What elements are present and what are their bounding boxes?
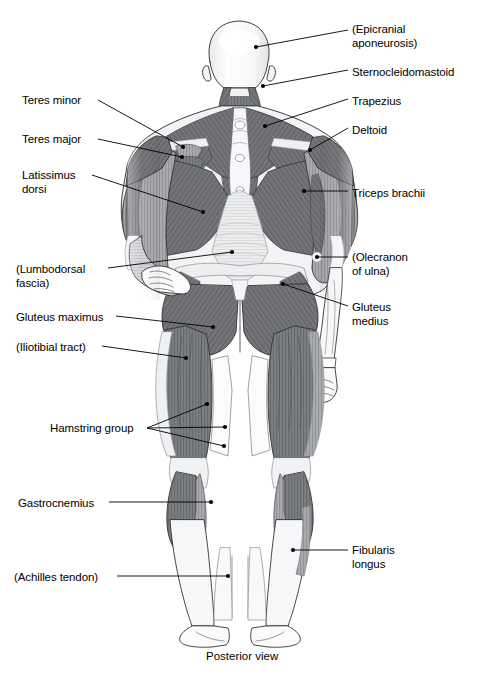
leader-endpoint-dot (302, 189, 306, 193)
leader-endpoint-dot (315, 255, 319, 259)
label-iliotibial-tract: (Iliotibial tract) (16, 340, 86, 354)
leader-line (256, 30, 348, 47)
leader-endpoint-dot (205, 402, 209, 406)
label-lumbodorsal-fascia: (Lumbodorsalfascia) (16, 262, 85, 290)
label-gastrocnemius: Gastrocnemius (18, 496, 94, 510)
label-text-line: (Lumbodorsal (16, 262, 85, 276)
label-fibularis-longus: Fibularislongus (352, 543, 395, 571)
label-text-line: Deltoid (352, 123, 387, 137)
label-text-line: Teres major (22, 132, 81, 146)
label-text-line: dorsi (22, 182, 75, 196)
label-hamstring-group: Hamstring group (50, 421, 134, 435)
leader-line (310, 128, 348, 150)
label-text-line: Gluteus maximus (16, 310, 103, 324)
leader-line (116, 316, 213, 327)
label-text-line: Hamstring group (50, 421, 134, 435)
leader-endpoint-dot (261, 84, 265, 88)
label-trapezius: Trapezius (352, 94, 401, 108)
label-text-line: (Epicranial (352, 22, 417, 36)
label-text-line: Sternocleidomastoid (352, 65, 454, 79)
label-text-line: Fibularis (352, 543, 395, 557)
leader-endpoint-dot (291, 548, 295, 552)
label-epicranial-aponeurosis: (Epicranialaponeurosis) (352, 22, 417, 50)
label-gluteus-maximus: Gluteus maximus (16, 310, 103, 324)
muscle-diagram-figure: (Epicranialaponeurosis)Sternocleidomasto… (0, 0, 479, 677)
label-text-line: longus (352, 557, 395, 571)
leader-endpoint-dot (263, 124, 267, 128)
label-text-line: medius (352, 314, 391, 328)
leader-endpoint-dot (209, 500, 213, 504)
label-gluteus-medius: Gluteusmedius (352, 300, 391, 328)
leader-endpoint-dot (222, 444, 226, 448)
leader-endpoint-dot (201, 210, 205, 214)
label-text-line: (Olecranon (352, 250, 408, 264)
label-text-line: Trapezius (352, 94, 401, 108)
leader-line (98, 100, 183, 147)
leader-endpoint-dot (230, 250, 234, 254)
label-olecranon-of-ulna: (Olecranonof ulna) (352, 250, 408, 278)
leader-endpoint-dot (181, 145, 185, 149)
figure-caption: Posterior view (206, 650, 278, 662)
leader-line (147, 404, 207, 428)
leader-line (102, 346, 186, 358)
label-text-line: fascia) (16, 276, 85, 290)
leader-endpoint-dot (184, 356, 188, 360)
leader-line (92, 175, 203, 212)
label-text-line: Gluteus (352, 300, 391, 314)
label-text-line: (Iliotibial tract) (16, 340, 86, 354)
leader-line (265, 99, 348, 126)
label-text-line: Gastrocnemius (18, 496, 94, 510)
label-text-line: (Achilles tendon) (14, 570, 98, 584)
label-text-line: of ulna) (352, 264, 408, 278)
leader-endpoint-dot (281, 282, 285, 286)
label-teres-major: Teres major (22, 132, 81, 146)
leader-endpoint-dot (226, 574, 230, 578)
leader-line (263, 70, 348, 86)
label-text-line: Latissimus (22, 168, 75, 182)
leader-endpoint-dot (308, 148, 312, 152)
leader-line (283, 284, 348, 306)
label-text-line: Triceps brachii (352, 186, 425, 200)
leader-endpoint-dot (254, 45, 258, 49)
label-text-line: Teres minor (22, 93, 81, 107)
label-text-line: aponeurosis) (352, 36, 417, 50)
label-deltoid: Deltoid (352, 123, 387, 137)
leader-line (108, 252, 232, 268)
leader-endpoint-dot (180, 155, 184, 159)
leader-line (98, 139, 182, 157)
leader-endpoint-dot (211, 325, 215, 329)
leader-line (147, 427, 225, 428)
label-teres-minor: Teres minor (22, 93, 81, 107)
leader-line (147, 428, 224, 446)
label-latissimus-dorsi: Latissimusdorsi (22, 168, 75, 196)
label-achilles-tendon: (Achilles tendon) (14, 570, 98, 584)
leader-endpoint-dot (223, 425, 227, 429)
label-triceps-brachii: Triceps brachii (352, 186, 425, 200)
label-sternocleidomastoid: Sternocleidomastoid (352, 65, 454, 79)
